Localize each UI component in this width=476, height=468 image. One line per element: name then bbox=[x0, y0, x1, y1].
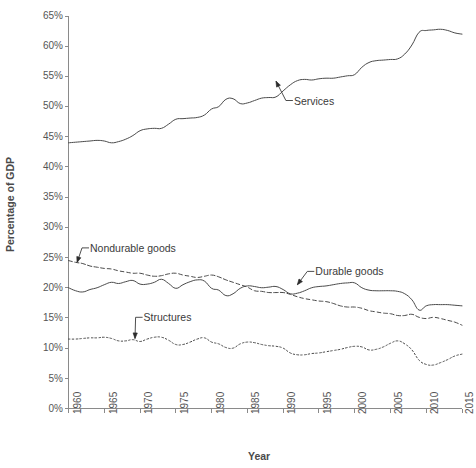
y-tick-label: 20% bbox=[30, 283, 63, 293]
y-tick-label: 50% bbox=[30, 101, 63, 111]
y-tick-label: 45% bbox=[30, 132, 63, 142]
series-annotation-nondurable-goods: Nondurable goods bbox=[90, 243, 176, 254]
y-tick-label: 15% bbox=[30, 313, 63, 323]
x-tick-label: 1975 bbox=[180, 392, 190, 414]
y-tick-label: 25% bbox=[30, 253, 63, 263]
series-annotation-services: Services bbox=[294, 96, 334, 107]
x-tick-label: 1960 bbox=[73, 392, 83, 414]
x-tick-label: 2015 bbox=[465, 392, 475, 414]
x-tick-label: 1965 bbox=[109, 392, 119, 414]
y-axis-title: Percentage of GDP bbox=[4, 157, 16, 252]
x-tick-label: 2000 bbox=[358, 392, 368, 414]
y-tick-label: 60% bbox=[30, 41, 63, 51]
x-tick-label: 2005 bbox=[394, 392, 404, 414]
x-tick-label: 1985 bbox=[251, 392, 261, 414]
x-axis-title: Year bbox=[248, 450, 270, 462]
y-tick-label: 5% bbox=[30, 374, 63, 384]
y-tick-label: 65% bbox=[30, 11, 63, 21]
chart-container: 65% 60% 55% 50% 45% 40% 35% 30% 25% 20% … bbox=[0, 0, 476, 468]
x-tick-label: 1990 bbox=[287, 392, 297, 414]
series-annotation-durable-goods: Durable goods bbox=[315, 266, 383, 277]
y-tick-label: 55% bbox=[30, 71, 63, 81]
axis-ticks bbox=[65, 16, 463, 413]
series-annotation-structures: Structures bbox=[144, 312, 192, 323]
series-line-durable-goods bbox=[69, 279, 463, 310]
y-tick-label: 40% bbox=[30, 162, 63, 172]
x-tick-label: 2010 bbox=[430, 392, 440, 414]
data-series-group bbox=[69, 29, 463, 365]
y-tick-label: 0% bbox=[30, 404, 63, 414]
series-line-structures bbox=[69, 337, 463, 365]
y-tick-label: 10% bbox=[30, 343, 63, 353]
annotation-leader-lines bbox=[77, 81, 314, 338]
x-tick-label: 1970 bbox=[144, 392, 154, 414]
y-tick-label: 30% bbox=[30, 222, 63, 232]
x-tick-label: 1980 bbox=[216, 392, 226, 414]
y-tick-label: 35% bbox=[30, 192, 63, 202]
x-tick-label: 1995 bbox=[323, 392, 333, 414]
series-line-services bbox=[69, 29, 463, 143]
